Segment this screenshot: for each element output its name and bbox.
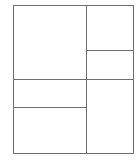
region-top-right-upper: [86, 5, 133, 50]
horizontal-divider-left-lower: [13, 107, 87, 108]
outer-border-top: [13, 5, 134, 6]
horizontal-divider-right-upper: [86, 50, 134, 51]
region-top-right-lower: [86, 50, 133, 79]
partition-diagram: [0, 0, 137, 161]
horizontal-divider-middle: [13, 79, 134, 80]
outer-border-bottom: [13, 153, 134, 154]
region-bottom-right-tall: [86, 79, 133, 153]
region-bottom-left-lower: [13, 107, 86, 153]
region-bottom-left-upper: [13, 79, 86, 107]
region-top-left-large: [13, 5, 86, 79]
